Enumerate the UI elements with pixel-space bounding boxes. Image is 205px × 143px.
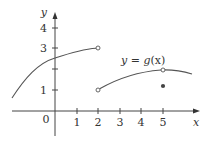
y-axis-label: y	[40, 6, 48, 19]
open-circle-icon	[96, 88, 100, 92]
x-tick-label: 5	[160, 116, 167, 129]
x-tick-label: 3	[117, 116, 124, 129]
x-axis-label: x	[193, 116, 200, 129]
chart: 0 1 2 3 4 5 x 1 3 4 y y = g(x)	[0, 0, 205, 143]
open-circle-icon	[161, 68, 165, 72]
x-tick-label: 4	[138, 116, 145, 129]
x-tick-label: 1	[74, 116, 81, 129]
origin-label: 0	[43, 113, 50, 126]
curve-piece-1	[12, 48, 96, 98]
curve-label: y = g(x)	[120, 54, 165, 67]
open-circle-icon	[96, 46, 100, 50]
x-tick-label: 2	[95, 116, 102, 129]
y-axis-arrow-icon	[53, 12, 58, 19]
y-tick-label: 3	[40, 42, 47, 55]
y-tick-label: 4	[40, 22, 47, 35]
y-tick-label: 1	[40, 84, 47, 97]
x-axis-arrow-icon	[193, 109, 200, 114]
filled-dot-icon	[161, 84, 165, 88]
curve-piece-2	[100, 70, 192, 89]
